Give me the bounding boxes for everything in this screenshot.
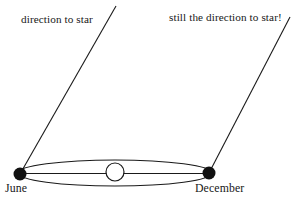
june-position-label: June — [5, 183, 27, 195]
sight-line-right-label: still the direction to star! — [169, 12, 282, 23]
december-position-label: December — [195, 183, 244, 195]
sun-icon — [106, 163, 124, 181]
diagram-canvas — [0, 0, 301, 204]
earth-june-position — [14, 168, 27, 181]
sight-line-from-december — [209, 17, 290, 173]
earth-december-position — [203, 167, 216, 180]
parallax-diagram: direction to star still the direction to… — [0, 0, 301, 204]
sight-line-from-june — [20, 6, 116, 174]
sight-line-left-label: direction to star — [21, 14, 93, 25]
